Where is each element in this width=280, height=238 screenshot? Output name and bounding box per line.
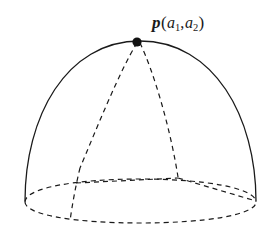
patch-chord-right-dashed bbox=[178, 178, 256, 201]
dome-silhouette-arc bbox=[25, 41, 256, 201]
point-label: p(a1,a2) bbox=[152, 14, 204, 31]
point-label-arg2: a bbox=[185, 14, 193, 31]
hemisphere-diagram-svg bbox=[0, 0, 280, 238]
point-label-vector-symbol: p bbox=[152, 13, 161, 32]
point-label-arg1-subscript: 1 bbox=[175, 22, 180, 33]
point-label-close-paren: ) bbox=[198, 13, 204, 32]
figure-container: p(a1,a2) bbox=[0, 0, 280, 238]
point-p-marker bbox=[132, 37, 141, 46]
point-label-arg1: a bbox=[167, 14, 175, 31]
meridian-left-dashed bbox=[80, 43, 137, 168]
meridian-right-dashed bbox=[140, 43, 178, 177]
base-ellipse-front-arc bbox=[25, 202, 256, 223]
point-label-arg2-subscript: 2 bbox=[193, 22, 198, 33]
meridian-left-lower-dashed bbox=[70, 168, 80, 221]
